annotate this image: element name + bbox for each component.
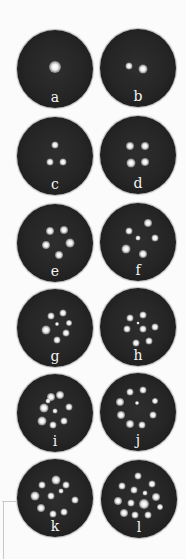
- panel-k: k: [17, 459, 93, 537]
- bright-spot: [50, 422, 57, 429]
- panel-label: g: [17, 349, 93, 363]
- bright-spot: [131, 487, 138, 494]
- bright-spot: [144, 219, 152, 227]
- bright-spot: [71, 497, 78, 504]
- bright-spot: [46, 227, 54, 235]
- panel-label: c: [17, 177, 93, 191]
- bright-spot: [59, 488, 64, 493]
- panel-b: b: [100, 29, 176, 107]
- bright-spot: [46, 159, 53, 166]
- panel-e: e: [17, 204, 93, 282]
- bright-spot: [141, 158, 149, 166]
- bright-spot: [143, 490, 148, 495]
- bright-spot: [126, 420, 134, 428]
- bright-spot: [121, 245, 130, 254]
- bright-spot: [53, 337, 60, 344]
- bright-spot: [135, 401, 139, 405]
- bright-spot: [151, 235, 158, 242]
- bright-spot: [140, 312, 147, 319]
- bright-spot: [146, 338, 153, 345]
- bright-spot: [150, 412, 157, 419]
- bright-spot: [39, 404, 48, 413]
- bright-spot: [152, 493, 160, 501]
- bright-spot: [65, 403, 72, 410]
- bright-spot: [137, 322, 140, 325]
- bright-spot: [140, 387, 147, 394]
- bright-spot: [123, 326, 130, 333]
- bright-spot: [152, 398, 158, 404]
- bright-spot: [126, 142, 134, 150]
- bright-spot: [63, 481, 70, 488]
- bright-spot: [56, 391, 64, 399]
- panel-label: f: [100, 263, 176, 277]
- bright-spot: [51, 476, 60, 485]
- bright-spot: [59, 310, 66, 317]
- bright-spot: [46, 398, 51, 403]
- bright-spot: [139, 499, 149, 509]
- bracket-line-horizontal: [2, 501, 16, 502]
- bright-spot: [114, 497, 122, 505]
- bright-spot: [42, 241, 50, 249]
- bright-spot: [55, 251, 63, 259]
- panel-label: e: [17, 264, 93, 278]
- bright-spot: [66, 239, 75, 248]
- panel-g: g: [17, 289, 93, 367]
- panel-d: d: [100, 116, 176, 194]
- bright-spot: [127, 158, 136, 167]
- bright-spot: [148, 481, 155, 488]
- bright-spot: [61, 509, 68, 516]
- bright-spot: [125, 62, 132, 69]
- bright-spot: [141, 142, 149, 150]
- panel-label: b: [100, 89, 176, 103]
- bright-spot: [41, 326, 50, 335]
- bright-spot: [66, 320, 72, 326]
- bright-spot: [53, 408, 58, 413]
- bright-spot: [49, 511, 56, 518]
- bright-spot: [138, 64, 147, 73]
- bright-spot: [119, 482, 126, 489]
- bright-spot: [127, 314, 134, 321]
- bright-spot: [139, 325, 146, 332]
- bright-spot: [48, 492, 55, 499]
- bright-spot: [117, 411, 125, 419]
- bright-spot: [62, 330, 69, 337]
- bright-spot: [61, 417, 68, 424]
- bright-spot: [152, 324, 159, 331]
- panel-label: i: [17, 434, 93, 448]
- bright-spot: [38, 416, 47, 425]
- bright-spot: [31, 491, 40, 500]
- bright-spot: [127, 388, 134, 395]
- bright-spot: [49, 61, 61, 73]
- bright-spot: [132, 512, 139, 519]
- panel-label: k: [17, 519, 93, 533]
- panel-label: a: [17, 90, 93, 104]
- panel-l: l: [101, 460, 177, 538]
- bright-spot: [116, 398, 124, 406]
- bright-spot: [135, 473, 142, 480]
- bright-spot: [60, 159, 67, 166]
- bright-spot: [39, 481, 46, 488]
- bright-spot: [52, 142, 59, 149]
- panel-label: l: [101, 520, 177, 534]
- panel-label: h: [100, 348, 176, 362]
- panel-f: f: [100, 203, 176, 281]
- bright-spot: [125, 228, 132, 235]
- bright-spot: [128, 499, 135, 506]
- bright-spot: [37, 504, 45, 512]
- bright-spot: [132, 339, 139, 346]
- bright-spot: [120, 509, 128, 517]
- bright-spot: [138, 422, 145, 429]
- bright-spot: [157, 504, 163, 510]
- panel-a: a: [17, 30, 93, 108]
- bright-spot: [145, 512, 152, 519]
- bright-spot: [48, 313, 55, 320]
- bright-spot: [139, 250, 147, 258]
- panel-label: j: [100, 433, 176, 447]
- bracket-line-vertical: [3, 501, 4, 559]
- bright-spot: [136, 236, 141, 241]
- bright-spot: [55, 322, 59, 326]
- panel-h: h: [100, 288, 176, 366]
- panel-j: j: [100, 373, 176, 451]
- panel-i: i: [17, 374, 93, 452]
- panel-c: c: [17, 117, 93, 195]
